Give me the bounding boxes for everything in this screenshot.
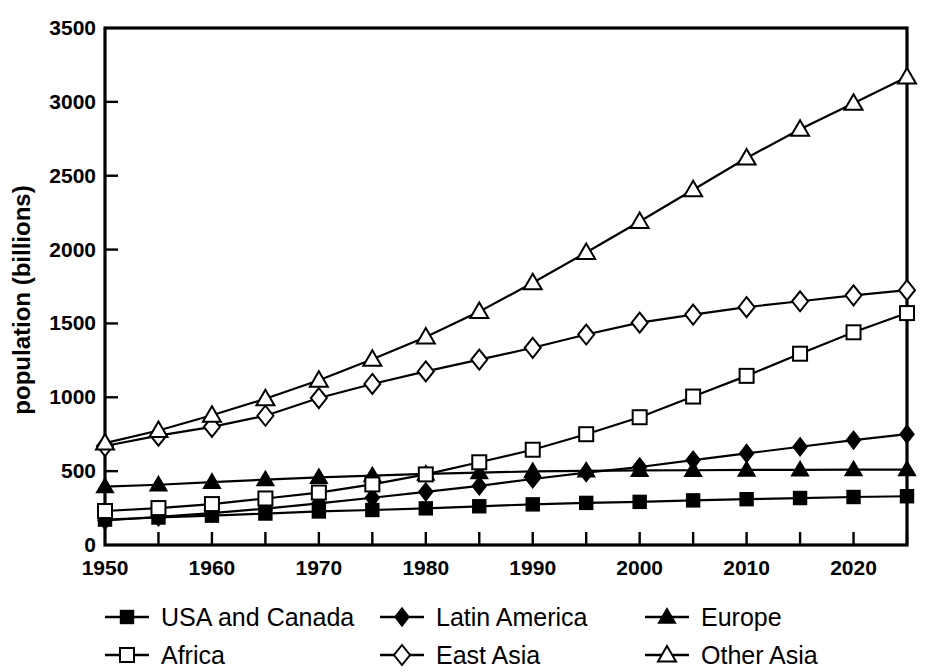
marker-square-open-icon	[900, 306, 914, 320]
legend-label: Africa	[161, 641, 225, 669]
y-tick-label: 500	[61, 459, 96, 482]
x-tick-label: 1980	[402, 556, 449, 579]
marker-square-filled-icon	[847, 490, 860, 503]
legend-label: Europe	[701, 603, 782, 631]
y-tick-label: 2500	[49, 164, 96, 187]
marker-square-open-icon	[686, 390, 700, 404]
marker-square-filled-icon	[473, 500, 486, 513]
x-tick-label: 2010	[723, 556, 770, 579]
marker-square-open-icon	[740, 369, 754, 383]
marker-square-filled-icon	[526, 498, 539, 511]
marker-square-open-icon	[793, 347, 807, 361]
marker-square-open-icon	[365, 477, 379, 491]
legend-label: USA and Canada	[161, 603, 354, 631]
marker-square-open-icon	[633, 410, 647, 424]
marker-square-open-icon	[526, 443, 540, 457]
marker-square-filled-icon	[633, 495, 646, 508]
marker-square-open-icon	[120, 648, 134, 662]
marker-square-open-icon	[847, 325, 861, 339]
marker-square-filled-icon	[901, 490, 914, 503]
y-tick-label: 3500	[49, 16, 96, 39]
y-tick-label: 0	[84, 533, 96, 556]
marker-square-filled-icon	[740, 493, 753, 506]
chart-background	[0, 0, 935, 672]
x-tick-label: 1950	[82, 556, 129, 579]
marker-square-open-icon	[98, 504, 112, 518]
marker-square-filled-icon	[419, 502, 432, 515]
marker-square-open-icon	[472, 455, 486, 469]
marker-square-open-icon	[151, 501, 165, 515]
marker-square-filled-icon	[794, 492, 807, 505]
y-tick-label: 2000	[49, 238, 96, 261]
x-tick-label: 1990	[509, 556, 556, 579]
y-tick-label: 3000	[49, 90, 96, 113]
marker-square-open-icon	[205, 497, 219, 511]
chart-canvas: population (billions) 050010001500200025…	[0, 0, 935, 672]
x-tick-label: 2020	[830, 556, 877, 579]
legend-label: East Asia	[436, 641, 540, 669]
marker-square-filled-icon	[580, 496, 593, 509]
y-tick-label: 1500	[49, 311, 96, 334]
x-tick-label: 1960	[189, 556, 236, 579]
legend-label: Latin America	[436, 603, 588, 631]
x-tick-label: 1970	[296, 556, 343, 579]
x-tick-label: 2000	[616, 556, 663, 579]
y-tick-label: 1000	[49, 385, 96, 408]
marker-square-filled-icon	[687, 494, 700, 507]
marker-square-open-icon	[312, 486, 326, 500]
population-line-chart: population (billions) 050010001500200025…	[0, 0, 935, 672]
marker-square-filled-icon	[121, 611, 134, 624]
y-axis-title: population (billions)	[8, 185, 35, 414]
legend-label: Other Asia	[701, 641, 818, 669]
marker-square-open-icon	[419, 467, 433, 481]
marker-square-open-icon	[258, 491, 272, 505]
marker-square-open-icon	[579, 427, 593, 441]
